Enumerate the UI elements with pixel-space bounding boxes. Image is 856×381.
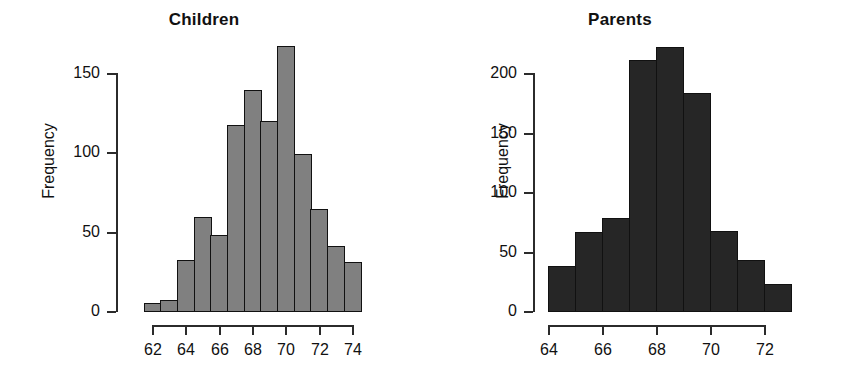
y-axis-tick-label: 200 (457, 64, 517, 82)
chart-title-parents: Parents (406, 10, 834, 30)
y-axis-tick (524, 192, 533, 194)
x-axis-tick-label: 72 (739, 341, 791, 359)
histogram-bar (629, 60, 657, 312)
y-axis-tick (524, 252, 533, 254)
histogram-figure: Children Frequency 050100150626466687072… (0, 0, 856, 381)
y-axis-tick (524, 73, 533, 75)
x-axis-tick (352, 325, 354, 335)
histogram-bar (683, 93, 711, 312)
x-axis-tick (252, 325, 254, 335)
histogram-bar (737, 260, 765, 312)
x-axis-tick-label: 70 (685, 341, 737, 359)
x-axis-tick (656, 325, 658, 335)
x-axis-tick (764, 325, 766, 335)
y-axis-tick-label: 150 (40, 64, 100, 82)
histogram-bar (344, 262, 362, 312)
y-axis-tick-label: 0 (40, 302, 100, 320)
y-axis-tick-label: 50 (40, 223, 100, 241)
x-axis-tick (548, 325, 550, 335)
histogram-bar (260, 121, 278, 312)
histogram-bar (160, 300, 178, 312)
x-axis-tick (285, 325, 287, 335)
y-axis-tick-label: 150 (457, 124, 517, 142)
y-axis-tick (524, 311, 533, 313)
histogram-bar (277, 46, 295, 312)
histogram-bar (227, 125, 245, 312)
y-axis-tick (107, 232, 116, 234)
histogram-bar (656, 47, 684, 312)
y-axis-tick (107, 311, 116, 313)
histogram-bar (548, 266, 576, 312)
y-axis-tick-label: 0 (457, 302, 517, 320)
histogram-bar (177, 260, 195, 312)
x-axis-tick (152, 325, 154, 335)
histogram-bar (575, 232, 603, 312)
histogram-bar (210, 235, 228, 312)
panel-parents: Parents Frequency 0501001502006466687072 (428, 0, 856, 381)
y-axis-spine (533, 73, 535, 312)
x-axis-tick (602, 325, 604, 335)
x-axis-tick-label: 74 (327, 341, 379, 359)
y-axis-tick-label: 50 (457, 243, 517, 261)
histogram-bar (764, 284, 792, 312)
y-axis-tick (107, 73, 116, 75)
histogram-bar (602, 218, 630, 312)
x-axis-tick-label: 68 (631, 341, 683, 359)
histogram-bar (327, 246, 345, 312)
x-axis-tick-label: 64 (523, 341, 575, 359)
panel-children: Children Frequency 050100150626466687072… (0, 0, 428, 381)
histogram-bar (710, 231, 738, 312)
y-axis-tick-label: 100 (40, 143, 100, 161)
y-axis-label-children: Frequency (40, 106, 58, 216)
y-axis-tick (107, 152, 116, 154)
x-axis-tick (710, 325, 712, 335)
histogram-bar (310, 209, 328, 312)
y-axis-spine (116, 73, 118, 312)
x-axis-tick (219, 325, 221, 335)
x-axis-tick (185, 325, 187, 335)
y-axis-tick (524, 133, 533, 135)
y-axis-tick-label: 100 (457, 183, 517, 201)
x-axis-tick (319, 325, 321, 335)
x-axis-tick-label: 66 (577, 341, 629, 359)
chart-title-children: Children (0, 10, 418, 30)
